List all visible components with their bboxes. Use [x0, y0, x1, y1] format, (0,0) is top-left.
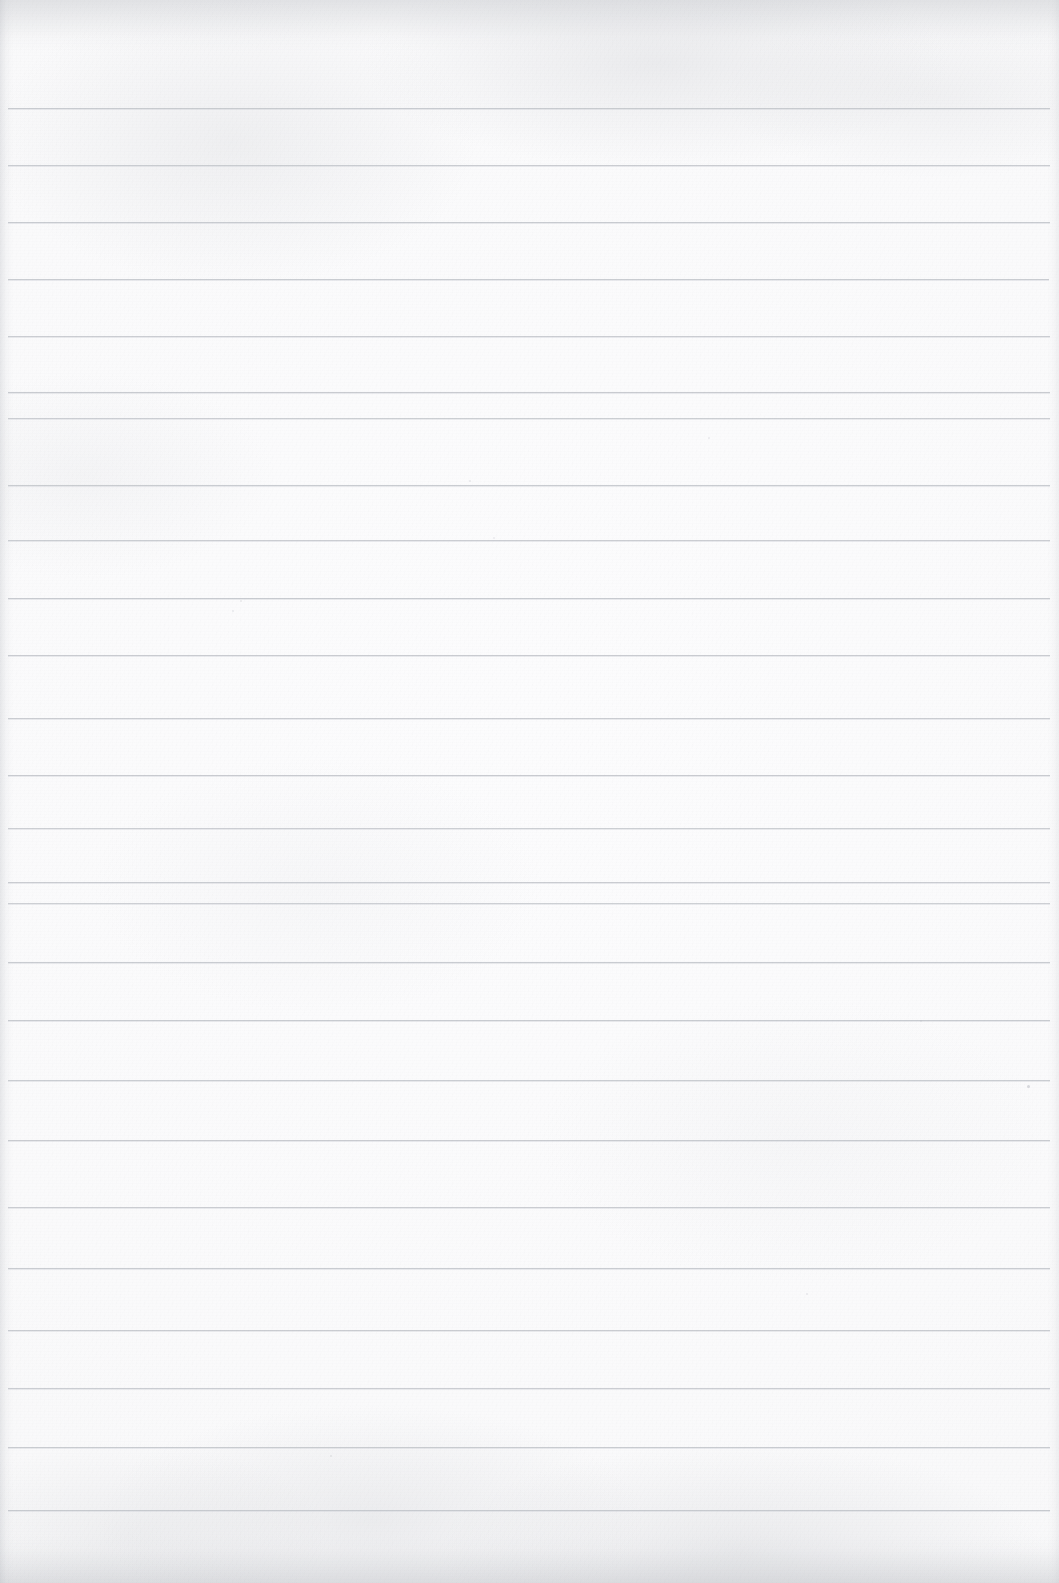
scanned-notebook-page: Blank Lined Notebook Page: [0, 0, 1059, 1583]
dust-speck: [1027, 1085, 1030, 1088]
dust-speck: [240, 600, 242, 602]
dust-speck: [920, 1020, 922, 1022]
dust-speck: [330, 1455, 332, 1457]
dust-speck: [806, 1293, 808, 1295]
dust-speck: [493, 537, 495, 539]
dust-specks-layer: [0, 0, 1059, 1583]
dust-speck: [232, 610, 234, 612]
dust-speck: [708, 437, 710, 439]
dust-speck: [469, 480, 471, 482]
